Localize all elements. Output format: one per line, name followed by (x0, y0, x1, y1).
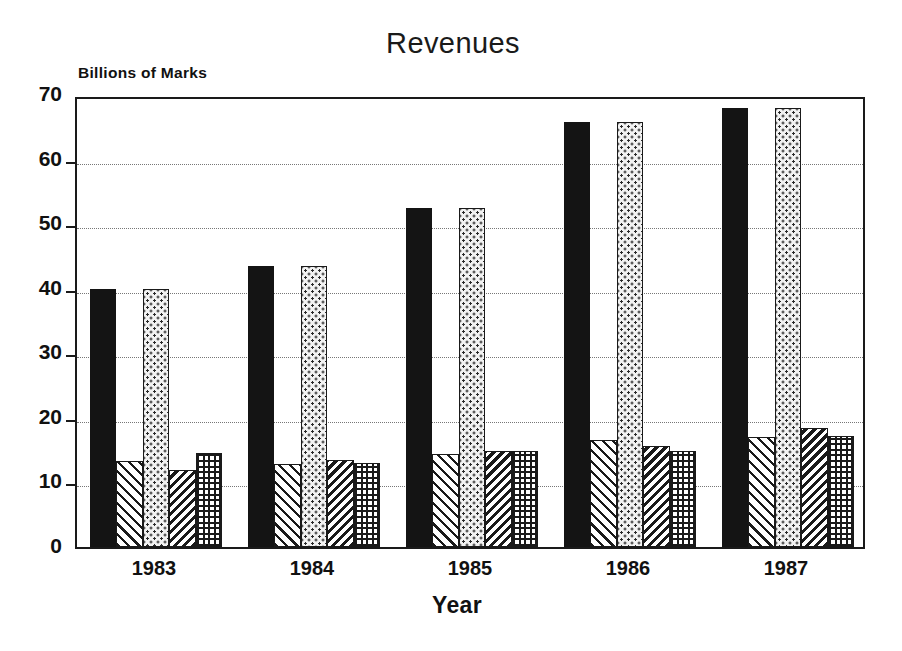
bar (459, 208, 486, 547)
bar (432, 454, 459, 547)
y-axis-tick-label: 0 (16, 534, 62, 558)
bar (590, 440, 617, 547)
y-axis-tick (66, 420, 75, 422)
y-axis-tick-label: 10 (16, 469, 62, 493)
bar (617, 122, 644, 547)
bar (643, 446, 670, 547)
x-axis-tick-label: 1987 (726, 557, 846, 580)
bar (748, 437, 775, 547)
y-axis-tick-label: 50 (16, 211, 62, 235)
bar (722, 108, 749, 547)
chart-title-text: Revenues (386, 27, 520, 59)
bar (775, 108, 802, 547)
bar (354, 463, 381, 547)
bar (274, 464, 301, 547)
x-axis-tick-label: 1984 (252, 557, 372, 580)
y-axis-tick-labels: 010203040506070 (0, 0, 62, 651)
bar (143, 289, 170, 547)
bar (512, 451, 539, 547)
y-axis-tick-label: 30 (16, 340, 62, 364)
bar (670, 451, 697, 547)
bar (485, 451, 512, 547)
bar (169, 470, 196, 547)
x-axis-tick-label: 1986 (568, 557, 688, 580)
x-axis-tick-label: 1983 (94, 557, 214, 580)
y-axis-tick (66, 291, 75, 293)
y-axis-tick-label: 70 (16, 82, 62, 106)
x-axis-caption: Year (0, 592, 902, 619)
y-axis-tick-label: 60 (16, 147, 62, 171)
y-axis-tick (66, 162, 75, 164)
chart-figure: Revenues Billions of Marks 0102030405060… (0, 0, 902, 651)
bar (828, 436, 855, 547)
plot-area (75, 97, 865, 549)
bar (90, 289, 117, 547)
bar (196, 453, 223, 547)
bar (327, 460, 354, 547)
bar (301, 266, 328, 547)
bar (406, 208, 433, 547)
bar (801, 428, 828, 547)
bar (564, 122, 591, 547)
y-axis-caption: Billions of Marks (78, 64, 207, 82)
x-axis-tick-label: 1985 (410, 557, 530, 580)
y-axis-tick (66, 355, 75, 357)
y-axis-tick-label: 20 (16, 405, 62, 429)
y-axis-tick (66, 484, 75, 486)
bar (116, 461, 143, 547)
chart-title: Revenues (0, 27, 902, 60)
y-axis-tick (66, 226, 75, 228)
bar (248, 266, 275, 547)
y-axis-tick-label: 40 (16, 276, 62, 300)
x-axis-caption-text: Year (432, 592, 482, 618)
